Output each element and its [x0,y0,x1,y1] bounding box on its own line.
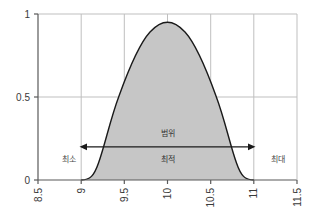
x-tick-label-11: 11 [248,188,259,199]
x-tick-labels: 8.5 9 9.5 10 10.5 11 11.5 [33,188,303,208]
x-tick-label-10: 10 [162,188,173,200]
bell-curve-chart: 범위 최적 최소 최대 0 0.5 1 [0,0,317,222]
y-tick-label-0: 0 [24,175,30,186]
x-tick-marks [38,180,297,184]
range-label: 범위 [161,128,175,138]
x-tick-label-9: 9 [76,188,87,194]
optimum-label: 최적 [161,154,175,164]
x-tick-label-11-5: 11.5 [292,188,303,207]
minimum-label: 최소 [62,154,76,164]
x-tick-label-8-5: 8.5 [33,188,44,202]
x-tick-label-9-5: 9.5 [119,188,130,202]
maximum-label: 최대 [271,154,285,164]
y-tick-label-1: 1 [24,9,30,20]
y-tick-labels: 0 0.5 1 [16,9,30,186]
chart-canvas: 범위 최적 최소 최대 0 0.5 1 [0,0,317,222]
x-tick-label-10-5: 10.5 [205,188,216,208]
y-tick-label-0-5: 0.5 [16,92,30,103]
